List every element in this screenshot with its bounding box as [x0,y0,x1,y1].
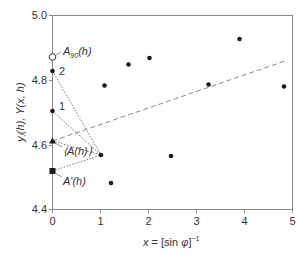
x-tick-label: 4 [241,215,247,227]
x-tick-label: 0 [49,215,55,227]
x-axis-label: x = [sin φ]−1 [142,235,200,248]
scatter-chart: 5.0 4.8 4.6 4.4 0 1 2 3 4 5 x = [sin φ]−… [0,0,306,255]
data-point [282,84,287,89]
aprime-annotation: A′(h) [62,175,86,187]
data-point [206,82,211,87]
x-tick-label: 1 [97,215,103,227]
point-2-marker [50,69,55,74]
y-axis-label: yⱼ(h), Y(x, h) [14,82,26,143]
data-point [99,153,104,158]
y-tick-label: 4.6 [32,139,47,151]
data-point [237,37,242,42]
point-1-annotation: 1 [59,100,65,112]
a90-open-circle-marker [49,54,56,61]
x-tick-label: 5 [289,215,295,227]
point-2-annotation: 2 [59,65,65,77]
mean-annotation: ⟨A(h)⟩ [63,145,93,157]
aprime-square-marker [50,168,56,174]
y-tick-label: 5.0 [32,9,47,21]
data-point [109,181,114,186]
data-point [169,154,174,159]
regression-line [53,61,286,141]
x-tick-label: 3 [193,215,199,227]
data-points [99,37,287,186]
x-tick-label: 2 [145,215,151,227]
data-point [147,56,152,61]
a90-annotation: A90(h) [62,45,92,59]
y-tick-label: 4.8 [32,74,47,86]
data-point [126,62,131,67]
a90-leader [56,52,61,55]
aprime-leader [55,173,62,177]
x-axis [53,210,293,214]
y-tick-label: 4.4 [32,203,47,215]
data-point [102,83,107,88]
point-1-marker [50,109,55,114]
mean-leader [55,143,62,147]
